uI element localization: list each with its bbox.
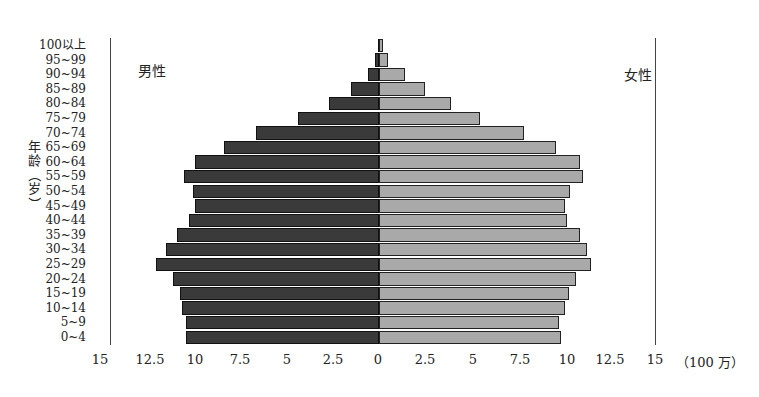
y-category-label: 50~54 (24, 184, 86, 198)
bar-female (379, 155, 580, 169)
x-tick-label: 15 (92, 352, 109, 367)
bar-male (368, 68, 379, 82)
y-category-label: 95~99 (24, 53, 86, 67)
x-tick-label: 12.5 (136, 352, 165, 367)
y-category-label: 55~59 (24, 169, 86, 183)
bar-male (180, 287, 379, 301)
bar-male (177, 228, 379, 242)
y-category-label: 25~29 (24, 257, 86, 271)
x-tick-label: 5 (283, 352, 291, 367)
y-category-label: 60~64 (24, 155, 86, 169)
bar-female (379, 331, 561, 345)
bar-male (351, 82, 379, 96)
x-tick-label: 12.5 (596, 352, 625, 367)
x-tick-label: 0 (374, 352, 382, 367)
bar-female (379, 112, 480, 126)
bar-male (166, 243, 379, 257)
x-tick-label: 2.5 (415, 352, 436, 367)
bar-female (379, 39, 383, 53)
x-tick-label: 10 (559, 352, 576, 367)
x-axis-unit-label: （100 万） (676, 352, 744, 371)
bar-female (379, 82, 425, 96)
x-tick-label: 2.5 (323, 352, 344, 367)
bar-female (379, 243, 587, 257)
bar-female (379, 214, 567, 228)
y-category-label: 75~79 (24, 111, 86, 125)
bar-male (173, 272, 379, 286)
x-tick-label: 5 (469, 352, 477, 367)
bar-male (186, 316, 379, 330)
bar-male (329, 97, 379, 111)
y-category-label: 10~14 (24, 301, 86, 315)
bar-female (379, 53, 388, 67)
bar-male (195, 199, 379, 213)
bar-female (379, 287, 569, 301)
y-category-label: 40~44 (24, 213, 86, 227)
bar-male (298, 112, 379, 126)
bar-female (379, 126, 524, 140)
x-tick-label: 10 (187, 352, 204, 367)
bar-female (379, 316, 559, 330)
bar-male (195, 155, 379, 169)
y-category-label: 70~74 (24, 126, 86, 140)
y-category-label: 5~9 (24, 315, 86, 329)
left-boundary-line (110, 38, 111, 345)
y-category-label: 65~69 (24, 140, 86, 154)
bar-male (182, 301, 379, 315)
bar-female (379, 185, 570, 199)
bar-male (186, 331, 379, 345)
x-tick-label: 7.5 (510, 352, 531, 367)
y-category-label: 35~39 (24, 228, 86, 242)
bar-male (193, 185, 379, 199)
bar-female (379, 199, 565, 213)
bar-female (379, 141, 556, 155)
bar-male (189, 214, 379, 228)
legend-female-label: 女性 (624, 64, 652, 84)
bar-female (379, 170, 583, 184)
y-category-label: 20~24 (24, 272, 86, 286)
bar-male (256, 126, 379, 140)
y-category-label: 15~19 (24, 286, 86, 300)
y-category-label: 45~49 (24, 199, 86, 213)
population-pyramid-chart: 男性 女性 年龄（岁） （100 万） 100以上95~9990~9485~89… (0, 0, 759, 397)
y-category-label: 30~34 (24, 242, 86, 256)
y-category-label: 85~89 (24, 82, 86, 96)
y-category-label: 0~4 (24, 330, 86, 344)
right-boundary-line (655, 38, 656, 345)
bar-female (379, 272, 576, 286)
bar-female (379, 228, 580, 242)
legend-male-label: 男性 (138, 60, 166, 80)
x-tick-label: 15 (647, 352, 664, 367)
y-category-label: 90~94 (24, 67, 86, 81)
bar-male (224, 141, 379, 155)
bar-female (379, 68, 405, 82)
bar-female (379, 97, 451, 111)
bar-female (379, 301, 565, 315)
bar-male (184, 170, 379, 184)
x-tick-label: 7.5 (230, 352, 251, 367)
bar-female (379, 258, 591, 272)
y-category-label: 80~84 (24, 96, 86, 110)
y-category-label: 100以上 (24, 38, 86, 52)
bar-male (156, 258, 379, 272)
